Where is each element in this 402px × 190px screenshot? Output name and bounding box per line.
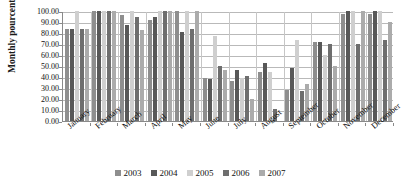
x-axis-tick-mark (393, 123, 394, 126)
bar-group (65, 11, 89, 121)
legend-item[interactable]: 2003 (115, 168, 142, 178)
bar (318, 42, 322, 121)
bar (168, 11, 172, 121)
legend-label: 2005 (196, 168, 214, 178)
y-axis-tick-mark (59, 89, 62, 90)
bar (175, 11, 179, 121)
legend-swatch-icon (151, 170, 157, 176)
bar (107, 11, 111, 121)
bar (250, 99, 254, 121)
bar (230, 81, 234, 121)
bar (153, 17, 157, 122)
bar (97, 11, 101, 121)
legend-swatch-icon (259, 170, 265, 176)
x-axis-tick-mark (365, 123, 366, 126)
bar (351, 11, 355, 121)
x-axis-tick-mark (283, 123, 284, 126)
bar (130, 11, 134, 121)
bar (65, 29, 69, 121)
x-axis-labels: JanuaryFebruaryMarchAprilMayJuneJulyAugu… (62, 123, 393, 167)
y-axis-tick-label: 80.00 (11, 30, 59, 38)
bar (295, 40, 299, 121)
legend-label: 2007 (268, 168, 286, 178)
x-axis-tick-mark (172, 123, 173, 126)
bar-group (175, 11, 199, 121)
bar (158, 11, 162, 121)
bar (180, 32, 184, 121)
legend-label: 2004 (160, 168, 178, 178)
bar-group (92, 11, 116, 121)
x-axis-tick-mark (145, 123, 146, 126)
y-axis-tick-label: 40.00 (11, 74, 59, 82)
bar-group (120, 11, 144, 121)
y-axis-tick-mark (59, 34, 62, 35)
plot-area-wrapper: 100.0090.0080.0070.0060.0050.0040.0030.0… (62, 12, 393, 122)
y-axis-tick-label: 60.00 (11, 52, 59, 60)
bar-group (285, 11, 309, 121)
chart-legend: 20032004200520062007 (0, 168, 400, 178)
bar (373, 11, 377, 121)
y-axis-tick-label: 30.00 (11, 85, 59, 93)
bar (235, 70, 239, 121)
bar (258, 72, 262, 122)
bar (125, 25, 129, 121)
bar (190, 29, 194, 121)
bar (163, 11, 167, 121)
bar (195, 11, 199, 121)
legend-swatch-icon (187, 170, 193, 176)
bar (378, 11, 382, 121)
y-axis-tick-label: 50.00 (11, 63, 59, 71)
bar (245, 76, 249, 121)
x-axis-tick-mark (90, 123, 91, 126)
y-axis-tick-mark (59, 111, 62, 112)
y-axis-tick-label: 0.00 (11, 118, 59, 126)
bar (223, 70, 227, 121)
bar (70, 29, 74, 121)
legend-label: 2006 (232, 168, 250, 178)
legend-item[interactable]: 2005 (187, 168, 214, 178)
legend-swatch-icon (223, 170, 229, 176)
bar-group (230, 11, 254, 121)
bar (263, 63, 267, 121)
legend-label: 2003 (124, 168, 142, 178)
legend-swatch-icon (115, 170, 121, 176)
y-axis-tick-mark (59, 12, 62, 13)
y-axis-tick-label: 10.00 (11, 107, 59, 115)
bar (285, 90, 289, 121)
x-axis-tick-mark (255, 123, 256, 126)
legend-item[interactable]: 2004 (151, 168, 178, 178)
bar (140, 30, 144, 121)
bar-group (203, 11, 227, 121)
legend-item[interactable]: 2006 (223, 168, 250, 178)
bar-group (258, 11, 282, 121)
y-axis-tick-mark (59, 23, 62, 24)
bar (341, 14, 345, 121)
y-axis-tick-label: 100.00 (11, 8, 59, 16)
bar-group (148, 11, 172, 121)
bar (102, 11, 106, 121)
bar (148, 20, 152, 121)
x-axis-tick-mark (200, 123, 201, 126)
bar (135, 17, 139, 122)
legend-item[interactable]: 2007 (259, 168, 286, 178)
y-axis-tick-label: 90.00 (11, 19, 59, 27)
bar (75, 11, 79, 121)
x-axis-tick-mark (117, 123, 118, 126)
x-axis-tick-mark (228, 123, 229, 126)
bar (290, 68, 294, 121)
y-axis-tick-mark (59, 78, 62, 79)
x-axis-tick-mark (338, 123, 339, 126)
bar (120, 15, 124, 121)
y-axis-tick-mark (59, 100, 62, 101)
bar (92, 11, 96, 121)
bar (346, 11, 350, 121)
plot-area (62, 12, 393, 122)
x-axis-tick-mark (310, 123, 311, 126)
bar (185, 11, 189, 121)
y-axis-tick-mark (59, 56, 62, 57)
y-axis-tick-mark (59, 45, 62, 46)
y-axis-tick-mark (59, 67, 62, 68)
bar (203, 78, 207, 121)
bar (213, 36, 217, 121)
